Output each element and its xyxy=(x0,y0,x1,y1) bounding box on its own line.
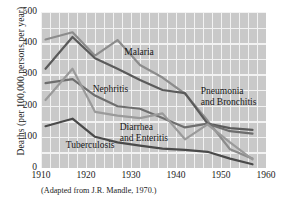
figure-chart-deaths-by-cause: Deaths (per 100,000 persons per year) 01… xyxy=(0,0,285,205)
figure-caption: (Adapted from J.R. Mandle, 1970.) xyxy=(41,186,157,195)
series-label-malaria: Malaria xyxy=(124,47,154,58)
y-tick-label: 300 xyxy=(0,69,37,79)
x-tick-label: 1940 xyxy=(156,170,196,180)
series-label-tuberculosis: Tuberculosis xyxy=(66,140,115,151)
series-label-pneumonia-and-bronchitis: Pneumonia and Bronchitis xyxy=(201,86,257,107)
y-tick-label: 400 xyxy=(0,38,37,48)
y-tick-label: 200 xyxy=(0,101,37,111)
y-tick-label: 100 xyxy=(0,132,37,142)
y-tick-label: 500 xyxy=(0,7,37,17)
series-label-diarrhea-and-enteritis: Diarrhea and Enteritis xyxy=(120,122,168,143)
x-tick-label: 1920 xyxy=(66,170,106,180)
x-tick-label: 1950 xyxy=(201,170,241,180)
x-tick-label: 1910 xyxy=(21,170,61,180)
series-label-nephritis: Nephritis xyxy=(93,84,128,95)
x-tick-label: 1960 xyxy=(246,170,285,180)
x-tick-label: 1930 xyxy=(111,170,151,180)
